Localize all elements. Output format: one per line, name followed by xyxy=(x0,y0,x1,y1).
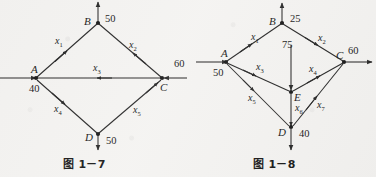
fig7-flow-A-value: 40 xyxy=(29,84,40,95)
fig7-x5-sub: 5 xyxy=(137,110,140,117)
fig7-x1-sub: 1 xyxy=(59,41,62,48)
fig7-x2-sub: 2 xyxy=(133,45,136,52)
fig7-edge-label-x4: x4 xyxy=(54,104,62,117)
fig7-caption: 图 1－7 xyxy=(63,155,106,171)
fig8-x7-sub: 7 xyxy=(321,105,324,112)
fig8-edge-label-x7: x7 xyxy=(317,100,325,113)
fig8-x6-sub: 6 xyxy=(299,108,302,115)
fig8-node-label-A: A xyxy=(221,48,228,59)
fig8-flow-D-value: 40 xyxy=(299,129,310,140)
fig8-node-B-dot xyxy=(280,21,284,25)
fig7-flow-B-value: 50 xyxy=(105,14,116,25)
fig8-caption: 图 1－8 xyxy=(253,155,296,171)
fig7-x3-sub: 3 xyxy=(97,68,100,75)
fig7-edge-x1 xyxy=(37,24,97,77)
fig8-node-A-dot xyxy=(224,60,228,64)
fig7-node-label-C: C xyxy=(160,82,167,93)
fig7-node-D-dot xyxy=(96,132,100,136)
fig8-x3-sub: 3 xyxy=(260,67,263,74)
diagram-canvas xyxy=(0,0,376,177)
fig8-x5-sub: 5 xyxy=(252,98,255,105)
fig7-node-label-A: A xyxy=(31,64,38,75)
fig8-edge-label-x2: x2 xyxy=(318,33,326,46)
fig8-flow-A-value: 50 xyxy=(213,68,224,79)
fig8-node-label-D: D xyxy=(278,127,286,138)
fig8-node-label-C: C xyxy=(336,50,343,61)
fig7-edge-label-x5: x5 xyxy=(133,105,141,118)
fig7-edge-label-x3: x3 xyxy=(93,63,101,76)
fig7-node-C-dot xyxy=(160,76,164,80)
fig8-edge-label-x4: x4 xyxy=(309,64,317,77)
fig8-edge-label-x3: x3 xyxy=(256,62,264,75)
fig7-x4-sub: 4 xyxy=(58,109,61,116)
fig8-edge-label-x1: x1 xyxy=(251,32,259,45)
fig7-node-B-dot xyxy=(96,21,100,25)
fig7-node-label-D: D xyxy=(85,132,93,143)
fig8-node-D-dot xyxy=(289,125,293,129)
fig7-node-A-dot xyxy=(34,76,38,80)
fig7-node-label-B: B xyxy=(84,16,91,27)
fig8-x4-sub: 4 xyxy=(313,69,316,76)
fig8-flow-E-value: 75 xyxy=(282,40,293,51)
fig7-edge-x5 xyxy=(99,80,161,133)
fig7-edge-x4 xyxy=(37,80,97,133)
fig8-node-label-B: B xyxy=(269,16,276,27)
fig8-edge-label-x5: x5 xyxy=(248,93,256,106)
fig7-flow-D-value: 50 xyxy=(106,136,117,147)
fig7-flow-C-value: 60 xyxy=(174,59,185,70)
fig8-node-E-dot xyxy=(289,90,293,94)
fig8-flow-B-value: 25 xyxy=(290,14,301,25)
fig7-edge-label-x1: x1 xyxy=(55,36,63,49)
fig8-flow-C-value: 60 xyxy=(348,46,359,57)
fig8-edge-x4 xyxy=(293,63,343,91)
fig7-edge-label-x2: x2 xyxy=(129,40,137,53)
fig8-x2-sub: 2 xyxy=(322,38,325,45)
figure-page: B 50 A 40 C 60 D 50 x1 x2 x3 x4 x5 图 1－7… xyxy=(0,0,376,177)
fig8-edge-label-x6: x6 xyxy=(295,103,303,116)
fig8-x1-sub: 1 xyxy=(255,37,258,44)
